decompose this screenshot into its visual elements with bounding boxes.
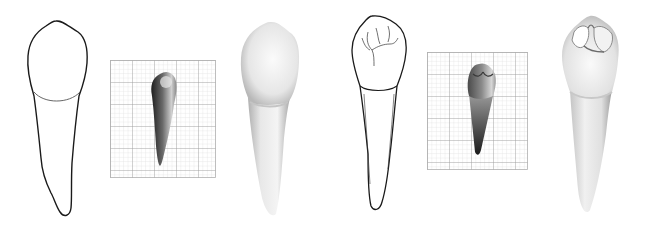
- tooth-outline: [352, 16, 406, 210]
- cej-line: [360, 86, 397, 91]
- tooth-root-render: [248, 98, 290, 215]
- tooth-photo-on-grid-buccal: [110, 60, 216, 178]
- tooth-specimen-photo-crown: [468, 63, 496, 99]
- tooth-crown-render: [241, 22, 299, 105]
- tooth-root-render: [570, 90, 612, 212]
- tooth-shaded-rendering-buccal: [236, 18, 306, 220]
- tooth-outline: [28, 21, 87, 216]
- tooth-photo-on-grid-occlusal: [427, 52, 528, 170]
- tooth-outline-drawing-occlusal: [344, 14, 414, 214]
- tooth-shaded-rendering-occlusal: [560, 14, 628, 219]
- cej-line: [34, 92, 80, 101]
- tooth-crown-render: [562, 16, 619, 97]
- tooth-outline-drawing-buccal: [24, 18, 94, 223]
- occlusal-fissures: [362, 26, 398, 66]
